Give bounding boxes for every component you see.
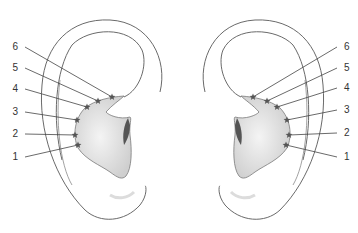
leader-line [289,133,337,135]
point-number-label: 3 [344,104,350,115]
point-number-label: 5 [344,62,350,73]
point-number-label: 2 [12,128,18,139]
point-number-label: 6 [344,41,350,52]
leader-line [287,110,337,120]
point-number-label: 1 [344,151,350,162]
point-number-label: 6 [12,41,18,52]
leader-line [267,68,337,101]
point-number-label: 4 [344,82,350,93]
point-number-label: 2 [344,127,350,138]
left-concha [75,96,131,178]
point-number-label: 1 [12,151,18,162]
right-ear [203,20,323,219]
leader-line [25,112,77,120]
leader-line [286,145,337,157]
point-number-label: 4 [12,83,18,94]
point-number-label: 3 [12,106,18,117]
leader-line [25,68,98,101]
leader-line [25,47,112,97]
leader-line [25,134,75,135]
point-number-label: 5 [12,62,18,73]
left-ear [41,20,161,219]
leader-line [253,47,337,97]
ear-diagram: 654321 654321 [0,0,358,233]
